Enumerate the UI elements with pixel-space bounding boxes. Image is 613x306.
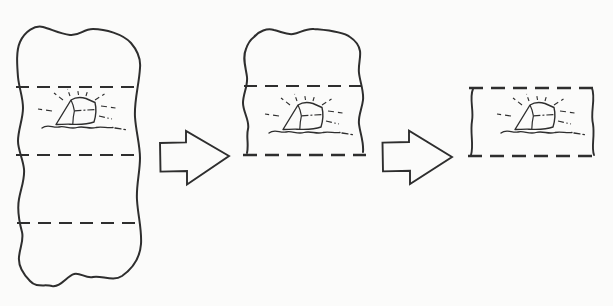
block-arrow-right-icon (383, 131, 453, 184)
left-edge (471, 89, 473, 155)
shining-crystal-icon (38, 89, 128, 131)
block-arrow-right-icon (160, 131, 229, 185)
arrow-1 (160, 131, 229, 185)
arrow-2 (383, 131, 453, 184)
diagram-canvas (0, 0, 613, 306)
block-outline (17, 27, 141, 287)
block-outline (243, 29, 363, 153)
shining-crystal-icon (265, 94, 355, 136)
stage-1-large-block (16, 27, 141, 287)
right-edge (592, 88, 594, 155)
shining-crystal-icon (497, 94, 587, 136)
process-diagram (0, 0, 613, 306)
stage-2-trimmed-block (243, 29, 366, 155)
stage-3-final-section (468, 88, 596, 156)
